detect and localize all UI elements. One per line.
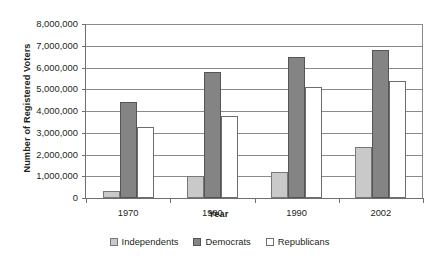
legend-swatch-icon (193, 238, 201, 246)
y-axis-tick-mark (82, 155, 86, 156)
legend-item-independents[interactable]: Independents (110, 236, 179, 247)
y-axis-tick-label: 0 (18, 193, 78, 203)
chart-legend: IndependentsDemocratsRepublicans (0, 236, 439, 247)
bar-independents-1970 (103, 191, 120, 198)
legend-item-republicans[interactable]: Republicans (266, 236, 330, 247)
y-axis-tick-label: 8,000,000 (18, 19, 78, 29)
legend-label: Independents (122, 236, 179, 247)
bar-independents-1990 (271, 172, 288, 198)
bar-chart: Number of Registered Voters 01,000,0002,… (0, 0, 439, 266)
bar-republicans-1970 (137, 127, 154, 198)
bar-republicans-1990 (305, 87, 322, 198)
legend-label: Democrats (205, 236, 250, 247)
x-axis-tick-mark (339, 198, 340, 203)
y-axis-tick-mark (82, 111, 86, 112)
x-axis-tick-mark (170, 198, 171, 203)
y-axis-tick-labels: 01,000,0002,000,0003,000,0004,000,0005,0… (18, 0, 78, 266)
y-axis-tick-label: 6,000,000 (18, 63, 78, 73)
x-axis-title: Year (0, 209, 439, 219)
legend-label: Republicans (278, 236, 330, 247)
x-axis-tick-mark (423, 198, 424, 203)
y-axis-tick-label: 7,000,000 (18, 41, 78, 51)
x-axis-title-text: Year (208, 209, 228, 219)
y-axis-tick-mark (82, 133, 86, 134)
bar-democrats-1980 (204, 72, 221, 198)
gridline (86, 46, 423, 47)
y-axis-tick-mark (82, 46, 86, 47)
bar-independents-2002 (355, 147, 372, 198)
bar-democrats-2002 (372, 50, 389, 198)
y-axis-tick-mark (82, 176, 86, 177)
legend-item-democrats[interactable]: Democrats (193, 236, 250, 247)
bar-independents-1980 (187, 176, 204, 198)
gridline (86, 24, 423, 25)
x-axis-tick-mark (255, 198, 256, 203)
y-axis-tick-label: 4,000,000 (18, 106, 78, 116)
y-axis-tick-label: 2,000,000 (18, 150, 78, 160)
bar-democrats-1970 (120, 102, 137, 198)
bar-democrats-1990 (288, 57, 305, 198)
y-axis-tick-mark (82, 24, 86, 25)
bar-republicans-1980 (221, 116, 238, 198)
y-axis-tick-label: 3,000,000 (18, 128, 78, 138)
bar-republicans-2002 (389, 81, 406, 198)
y-axis-tick-label: 1,000,000 (18, 171, 78, 181)
x-axis-tick-mark (86, 198, 87, 203)
plot-area: 1970198019902002 (85, 24, 423, 199)
y-axis-tick-mark (82, 89, 86, 90)
y-axis-tick-mark (82, 68, 86, 69)
legend-swatch-icon (266, 238, 274, 246)
legend-swatch-icon (110, 238, 118, 246)
y-axis-tick-label: 5,000,000 (18, 84, 78, 94)
